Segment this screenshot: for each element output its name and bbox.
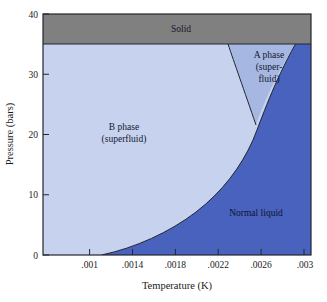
helium3-phase-diagram: 0 10 20 30 40 .001 .0014 .0018 .0022 .00… — [0, 0, 327, 302]
x-tick-label-001: .001 — [81, 260, 98, 270]
x-tick-label-0022: .0022 — [208, 260, 230, 270]
x-tick-label-0026: .0026 — [250, 260, 272, 270]
y-tick-label-40: 40 — [29, 10, 39, 20]
y-axis-title: Pressure (bars) — [4, 102, 16, 165]
y-tick-label-10: 10 — [29, 190, 39, 200]
x-axis-title: Temperature (K) — [142, 280, 213, 292]
region-label-normal-liquid: Normal liquid — [229, 208, 283, 218]
x-tick-label-0018: .0018 — [165, 260, 187, 270]
y-tick-label-0: 0 — [33, 251, 38, 261]
region-label-solid: Solid — [171, 24, 191, 34]
y-tick-label-30: 30 — [29, 70, 39, 80]
region-label-a-phase-line2: (super- — [256, 62, 283, 73]
phase-diagram-figure: 0 10 20 30 40 .001 .0014 .0018 .0022 .00… — [0, 0, 327, 302]
region-label-a-phase-line3: fluid) — [258, 74, 279, 85]
y-tick-label-20: 20 — [29, 130, 39, 140]
region-label-b-phase-line2: (superfluid) — [102, 134, 147, 145]
x-tick-label-003: .003 — [297, 260, 314, 270]
x-tick-label-0014: .0014 — [122, 260, 144, 270]
region-label-a-phase-line1: A phase — [254, 50, 284, 60]
region-label-b-phase-line1: B phase — [109, 122, 139, 132]
